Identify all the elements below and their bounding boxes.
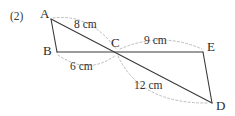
vertex-label-a: A xyxy=(40,7,49,20)
geometry-figure: (2) A B C E D 8 cm 6 cm 9 cm 12 cm xyxy=(0,0,235,116)
segment-ed xyxy=(203,52,212,103)
vertex-label-e: E xyxy=(207,40,215,53)
length-label-bc: 6 cm xyxy=(70,61,93,73)
figure-canvas xyxy=(0,0,235,116)
length-label-ce: 9 cm xyxy=(144,35,167,47)
length-label-cd: 12 cm xyxy=(134,80,162,92)
vertex-label-c: C xyxy=(111,36,120,49)
vertex-label-d: D xyxy=(216,99,225,112)
length-label-ac: 8 cm xyxy=(74,19,97,31)
problem-number: (2) xyxy=(10,11,23,23)
vertex-label-b: B xyxy=(43,44,52,57)
arc-cd xyxy=(118,56,209,103)
